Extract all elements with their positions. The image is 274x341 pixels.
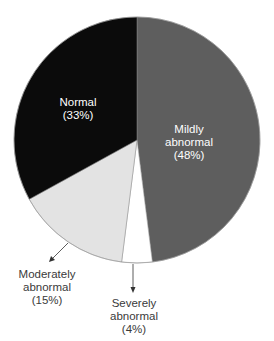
label-normal-percent: (33%) [63,109,94,121]
label-moderately-name: Moderately [19,268,76,280]
label-normal-name: Normal [59,96,96,108]
label-moderately-name2: abnormal [23,281,71,293]
label-mildly-name: Mildly [174,123,204,135]
label-severely-percent: (4%) [122,323,146,335]
pie-slices [14,17,260,263]
label-severely-name: Severely [112,297,157,309]
label-mildly-percent: (48%) [174,149,205,161]
pie-chart: Normal (33%) Mildly abnormal (48%) Moder… [0,0,274,341]
label-severely-name2: abnormal [110,310,158,322]
arrowhead-severely [131,287,136,293]
label-moderately-percent: (15%) [32,294,63,306]
label-mildly-name2: abnormal [165,136,213,148]
arrow-moderately [51,243,68,260]
